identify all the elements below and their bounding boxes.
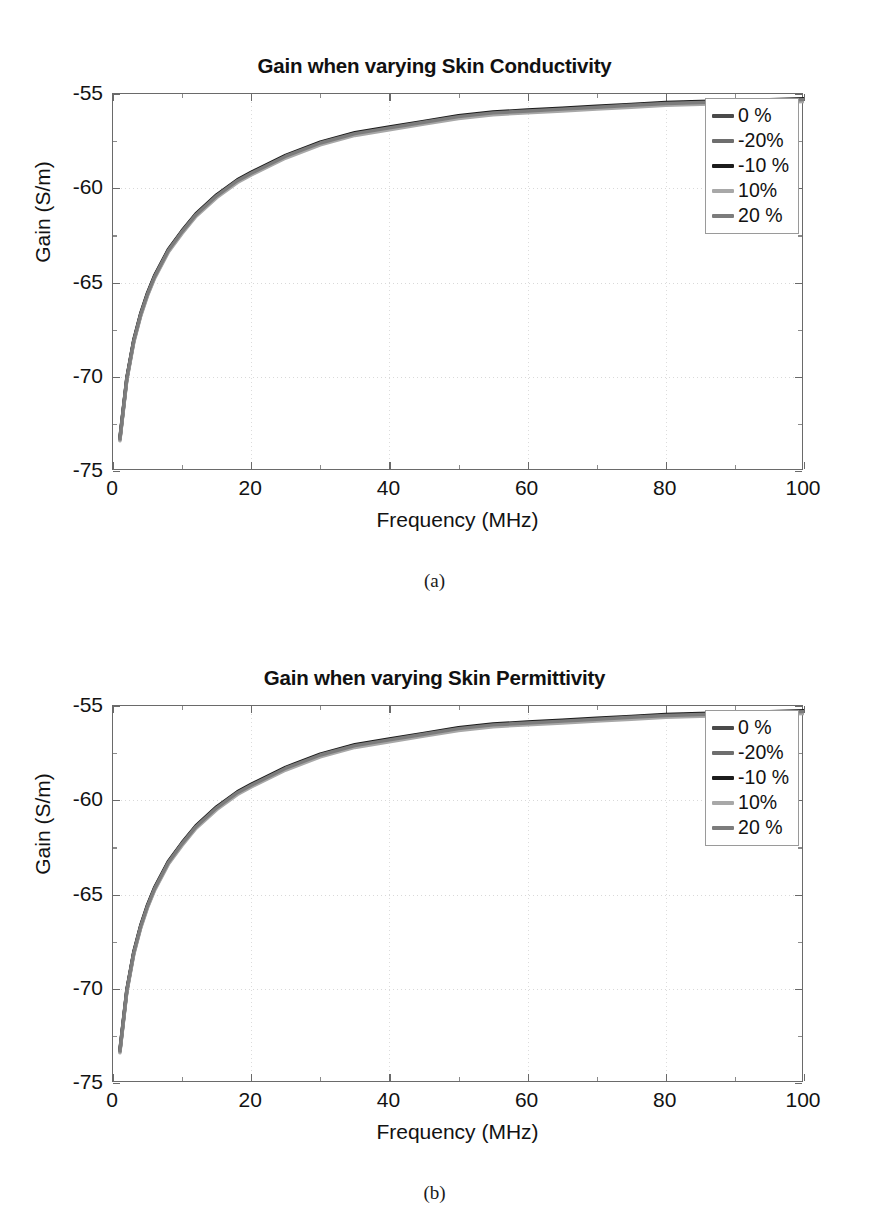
figure-b: Gain when varying Skin Permittivity Gain… [0, 612, 869, 1224]
series-line [120, 102, 804, 441]
x-axis-tick-label: 60 [515, 476, 538, 500]
x-axis-tick-label: 40 [377, 476, 400, 500]
series-line [120, 711, 804, 1050]
x-axis-tick-label: 20 [239, 1088, 262, 1112]
legend-item[interactable]: 10% [712, 178, 789, 203]
series-lines [113, 94, 804, 471]
series-line [120, 713, 804, 1052]
legend-item[interactable]: -10 % [712, 765, 789, 790]
series-line [120, 99, 804, 438]
legend-label: 0 % [738, 718, 772, 738]
legend-item[interactable]: 20 % [712, 815, 789, 840]
figure-caption: (a) [0, 570, 869, 592]
y-axis-title: Gain (S/m) [31, 684, 55, 964]
legend-color-swatch [712, 776, 734, 780]
x-axis-tick-label: 80 [653, 476, 676, 500]
legend-color-swatch [712, 826, 734, 830]
x-axis-title: Frequency (MHz) [112, 508, 803, 532]
legend-color-swatch [712, 189, 734, 193]
legend-label: -10 % [738, 156, 789, 176]
legend-label: 10% [738, 181, 777, 201]
legend-item[interactable]: 10% [712, 790, 789, 815]
chart-title: Gain when varying Skin Conductivity [0, 54, 869, 78]
legend-color-swatch [712, 751, 734, 755]
figure-a: Gain when varying Skin Conductivity Gain… [0, 0, 869, 612]
y-axis-tick-label: -60 [73, 175, 103, 199]
figure-caption: (b) [0, 1182, 869, 1204]
y-axis-tick [795, 471, 802, 472]
series-line [120, 712, 804, 1051]
x-axis-tick [804, 706, 805, 713]
x-axis-tick-label: 40 [377, 1088, 400, 1112]
y-axis-tick-label: -55 [73, 81, 103, 105]
legend-color-swatch [712, 726, 734, 730]
y-axis-tick [113, 471, 120, 472]
series-line [120, 100, 804, 439]
legend-item[interactable]: -20% [712, 128, 789, 153]
y-axis-tick-label: -65 [73, 882, 103, 906]
x-axis-title: Frequency (MHz) [112, 1120, 803, 1144]
y-axis-tick-label: -60 [73, 787, 103, 811]
series-line [120, 101, 804, 440]
x-axis-tick-label: 20 [239, 476, 262, 500]
legend-label: 0 % [738, 106, 772, 126]
legend-item[interactable]: 0 % [712, 715, 789, 740]
series-line [120, 100, 804, 439]
y-axis-tick [113, 1083, 120, 1084]
legend-color-swatch [712, 164, 734, 168]
legend-color-swatch [712, 214, 734, 218]
legend-label: 20 % [738, 206, 782, 226]
chart-title: Gain when varying Skin Permittivity [0, 666, 869, 690]
chart-skin-permittivity: Gain when varying Skin Permittivity Gain… [0, 612, 869, 1157]
series-line [120, 714, 804, 1053]
plot-area: 0 %-20%-10 %10%20 % [112, 93, 803, 470]
x-axis-tick [804, 94, 805, 101]
legend-label: 10% [738, 793, 777, 813]
x-axis-tick [804, 462, 805, 469]
x-axis-tick-label: 0 [106, 476, 118, 500]
legend-label: -20% [738, 743, 784, 763]
x-axis-tick-label: 80 [653, 1088, 676, 1112]
y-axis-title: Gain (S/m) [31, 72, 55, 352]
y-axis-tick-label: -75 [73, 1070, 103, 1094]
legend-color-swatch [712, 114, 734, 118]
legend-item[interactable]: 0 % [712, 103, 789, 128]
series-line [120, 712, 804, 1051]
chart-legend[interactable]: 0 %-20%-10 %10%20 % [705, 710, 799, 846]
legend-item[interactable]: -10 % [712, 153, 789, 178]
y-axis-tick-label: -65 [73, 270, 103, 294]
legend-label: -20% [738, 131, 784, 151]
y-axis-tick-label: -55 [73, 693, 103, 717]
plot-area: 0 %-20%-10 %10%20 % [112, 705, 803, 1082]
x-axis-tick-label: 0 [106, 1088, 118, 1112]
series-lines [113, 706, 804, 1083]
legend-item[interactable]: 20 % [712, 203, 789, 228]
legend-item[interactable]: -20% [712, 740, 789, 765]
legend-label: 20 % [738, 818, 782, 838]
x-axis-tick-label: 100 [785, 476, 820, 500]
y-axis-tick-label: -70 [73, 364, 103, 388]
legend-color-swatch [712, 139, 734, 143]
y-axis-tick [795, 1083, 802, 1084]
legend-label: -10 % [738, 768, 789, 788]
x-axis-tick [804, 1074, 805, 1081]
chart-legend[interactable]: 0 %-20%-10 %10%20 % [705, 98, 799, 234]
x-axis-tick-label: 60 [515, 1088, 538, 1112]
chart-skin-conductivity: Gain when varying Skin Conductivity Gain… [0, 0, 869, 545]
legend-color-swatch [712, 801, 734, 805]
y-axis-tick-label: -70 [73, 976, 103, 1000]
x-axis-tick-label: 100 [785, 1088, 820, 1112]
y-axis-tick-label: -75 [73, 458, 103, 482]
